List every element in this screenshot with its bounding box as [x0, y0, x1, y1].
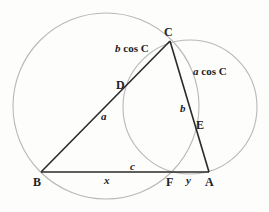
- side-b-CA: [170, 41, 209, 172]
- point-label-E: E: [196, 118, 204, 132]
- point-label-C: C: [164, 25, 173, 39]
- arc-label-b-cos-c: b cos C: [115, 42, 149, 54]
- side-label-b: b: [180, 102, 186, 114]
- point-label-D: D: [116, 78, 125, 92]
- arc-label-b-rest: cos C: [121, 42, 149, 54]
- side-label-y: y: [184, 174, 191, 186]
- point-label-A: A: [205, 175, 214, 189]
- point-label-B: B: [33, 175, 41, 189]
- side-label-c: c: [130, 160, 135, 172]
- arc-label-a-rest: cos C: [199, 65, 227, 77]
- diagram-svg: C D E B F A a b c x y b cos C a cos C: [0, 0, 269, 212]
- arc-label-a-cos-c: a cos C: [193, 65, 227, 77]
- side-a-BC: [41, 41, 170, 172]
- side-label-a: a: [101, 110, 107, 122]
- point-label-F: F: [166, 175, 173, 189]
- side-label-x: x: [103, 174, 110, 186]
- triangle-circles-diagram: C D E B F A a b c x y b cos C a cos C: [0, 0, 269, 212]
